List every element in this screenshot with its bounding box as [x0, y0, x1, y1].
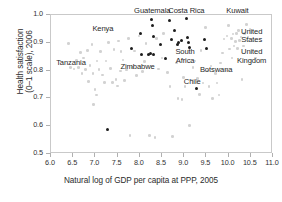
data-point — [86, 49, 89, 52]
data-point — [138, 35, 141, 38]
x-tick-mark — [228, 153, 229, 157]
data-point — [155, 37, 158, 40]
data-point — [177, 97, 180, 100]
data-point — [94, 88, 97, 91]
data-point — [176, 43, 179, 46]
data-point — [115, 78, 118, 81]
data-point — [79, 51, 82, 54]
data-point — [181, 98, 184, 101]
data-point — [198, 93, 201, 96]
data-point — [84, 68, 87, 71]
data-point — [148, 134, 151, 137]
data-point — [151, 24, 154, 27]
annotation-kenya: Kenya — [63, 25, 143, 33]
data-point — [187, 41, 190, 44]
data-point — [107, 41, 110, 44]
x-axis-label: Natural log of GDP per capita at PPP, 20… — [0, 176, 282, 185]
x-tick-label: 11.0 — [259, 158, 282, 167]
data-point — [113, 48, 116, 51]
x-tick-mark — [117, 153, 118, 157]
data-point — [73, 68, 76, 71]
data-point — [162, 32, 165, 35]
x-tick-mark — [94, 153, 95, 157]
data-point — [204, 26, 207, 29]
data-point — [103, 81, 106, 84]
data-point — [67, 42, 70, 45]
annotation-united-states: United States — [212, 28, 282, 45]
data-point — [117, 40, 120, 43]
y-tick-label: 0.7 — [21, 92, 43, 101]
data-point — [159, 43, 162, 46]
data-point — [130, 47, 133, 50]
data-point — [145, 42, 148, 45]
x-tick-mark — [72, 153, 73, 157]
data-point — [81, 72, 84, 75]
data-point — [150, 18, 153, 21]
data-point — [154, 136, 157, 139]
data-point — [188, 124, 191, 127]
data-point — [177, 41, 180, 44]
data-point — [95, 94, 98, 97]
data-point — [87, 80, 90, 83]
y-tick-label: 0.6 — [21, 120, 43, 129]
x-tick-mark — [205, 153, 206, 157]
y-tick-label: 0.5 — [21, 148, 43, 157]
data-point — [180, 39, 183, 42]
data-point — [140, 53, 143, 56]
data-point — [168, 19, 171, 22]
y-tick-label: 1.0 — [21, 9, 43, 18]
data-point — [227, 24, 230, 27]
x-tick-mark — [50, 153, 51, 157]
data-point — [173, 29, 176, 32]
data-point — [135, 74, 138, 77]
plot-area: GuatemalaCosta RicaKuwaitKenyaUnited Sta… — [50, 14, 272, 153]
annotation-botswana: Botswana — [176, 66, 256, 74]
data-point — [233, 45, 236, 48]
data-point — [211, 97, 214, 100]
data-point — [170, 38, 173, 41]
data-point — [152, 35, 155, 38]
data-point — [92, 103, 95, 106]
x-tick-mark — [161, 153, 162, 157]
scatter-chart-figure: Health satisfaction (0–1 scale), 2006 0.… — [0, 0, 282, 202]
x-tick-mark — [250, 153, 251, 157]
data-point — [101, 74, 104, 77]
data-point — [111, 81, 114, 84]
data-point — [91, 43, 94, 46]
data-point — [116, 85, 119, 88]
data-point — [171, 135, 174, 138]
x-tick-mark — [183, 153, 184, 157]
data-point — [195, 87, 198, 90]
data-point — [123, 79, 126, 82]
data-point — [92, 72, 95, 75]
data-point — [106, 128, 109, 131]
data-point — [129, 134, 132, 137]
data-point — [245, 23, 248, 26]
data-point — [185, 17, 188, 20]
data-point — [203, 38, 206, 41]
data-point — [186, 36, 189, 39]
annotation-kuwait: Kuwait — [197, 7, 277, 15]
data-point — [241, 78, 244, 81]
data-point — [218, 94, 221, 97]
data-point — [122, 59, 125, 62]
data-point — [120, 50, 123, 53]
annotation-south-africa: South Africa — [145, 48, 225, 65]
x-tick-mark — [139, 153, 140, 157]
annotation-chile: Chile — [152, 78, 232, 86]
y-tick-label: 0.9 — [21, 37, 43, 46]
data-point — [127, 37, 130, 40]
data-point — [99, 50, 102, 53]
x-tick-mark — [272, 153, 273, 157]
data-point — [133, 50, 136, 53]
